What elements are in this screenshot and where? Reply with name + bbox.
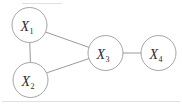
- node-x1-symbol: X: [19, 19, 29, 34]
- node-x1-circle[interactable]: [12, 8, 47, 43]
- node-x4[interactable]: X4: [141, 36, 176, 71]
- node-x4-subscript: 4: [159, 55, 163, 64]
- node-x1[interactable]: X1: [12, 8, 47, 43]
- node-x2-symbol: X: [20, 74, 30, 89]
- node-x2-subscript: 2: [31, 82, 35, 91]
- edge-x1-x2: [30, 43, 31, 63]
- edge-group: [30, 32, 141, 73]
- node-x3[interactable]: X3: [88, 36, 123, 71]
- node-x4-symbol: X: [148, 47, 158, 62]
- node-x3-circle[interactable]: [88, 36, 123, 71]
- node-x3-symbol: X: [95, 47, 105, 62]
- node-x4-circle[interactable]: [141, 36, 176, 71]
- node-x2[interactable]: X2: [13, 63, 48, 98]
- node-x1-subscript: 1: [30, 27, 34, 36]
- node-x3-subscript: 3: [106, 55, 110, 64]
- graph-figure: X1 X2 X3 X4: [0, 0, 182, 106]
- graph-canvas: X1 X2 X3 X4: [0, 0, 182, 106]
- edge-x1-x3: [46, 32, 90, 48]
- edge-x2-x3: [47, 58, 90, 73]
- node-x2-circle[interactable]: [13, 63, 48, 98]
